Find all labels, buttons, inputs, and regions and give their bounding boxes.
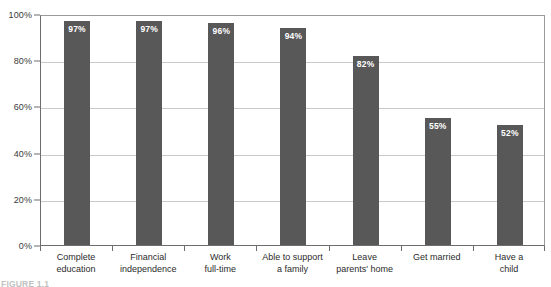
y-axis-tick-label: 80% [14, 56, 32, 66]
bar[interactable]: 97% [64, 21, 90, 245]
bar-value-label: 97% [136, 24, 162, 34]
bar-slot: 52% [474, 16, 546, 245]
bar-slot: 55% [402, 16, 474, 245]
bar-chart: 0%20%40%60%80%100% 97%97%96%94%82%55%52%… [0, 0, 551, 287]
bar[interactable]: 55% [425, 118, 451, 245]
bar-value-label: 52% [497, 128, 523, 138]
bar-value-label: 82% [353, 59, 379, 69]
bar[interactable]: 94% [280, 28, 306, 245]
bar-slot: 94% [257, 16, 329, 245]
bar-value-label: 94% [280, 31, 306, 41]
bar[interactable]: 52% [497, 125, 523, 245]
bar-value-label: 55% [425, 121, 451, 131]
x-axis-tick-mark [256, 246, 257, 251]
x-axis-tick-mark [329, 246, 330, 251]
x-axis-tick-mark [544, 246, 545, 251]
y-axis-tick-label: 0% [19, 241, 32, 251]
bar-slot: 97% [113, 16, 185, 245]
plot-area: 97%97%96%94%82%55%52% [40, 15, 545, 246]
x-axis-category-label: Have a child [473, 252, 545, 275]
bar-value-label: 96% [208, 26, 234, 36]
bar-slot: 97% [41, 16, 113, 245]
bars-group: 97%97%96%94%82%55%52% [41, 16, 544, 245]
x-axis-category-label: Work full-time [184, 252, 256, 275]
figure-caption: FIGURE 1.1 [1, 279, 49, 287]
x-axis-category-label: Financial independence [112, 252, 184, 275]
y-axis-tick-label: 100% [9, 10, 32, 20]
bar-slot: 96% [185, 16, 257, 245]
screenshot-root: 0%20%40%60%80%100% 97%97%96%94%82%55%52%… [0, 0, 551, 287]
bar-slot: 82% [330, 16, 402, 245]
x-axis-tick-mark [40, 246, 41, 251]
x-axis-tick-mark [401, 246, 402, 251]
bar[interactable]: 97% [136, 21, 162, 245]
x-axis-category-label: Get married [401, 252, 473, 264]
x-axis-tick-mark [473, 246, 474, 251]
y-axis-tick-label: 20% [14, 195, 32, 205]
x-axis-labels: Complete educationFinancial independence… [40, 252, 545, 280]
x-axis-category-label: Able to support a family [256, 252, 328, 275]
bar[interactable]: 96% [208, 23, 234, 245]
bar-value-label: 97% [64, 24, 90, 34]
bar[interactable]: 82% [353, 56, 379, 245]
x-axis-tick-mark [184, 246, 185, 251]
x-axis-tick-mark [112, 246, 113, 251]
y-axis-tick-label: 40% [14, 149, 32, 159]
x-axis-category-label: Complete education [40, 252, 112, 275]
y-axis-tick-label: 60% [14, 102, 32, 112]
y-axis: 0%20%40%60%80%100% [0, 15, 40, 246]
x-axis-category-label: Leave parents' home [329, 252, 401, 275]
